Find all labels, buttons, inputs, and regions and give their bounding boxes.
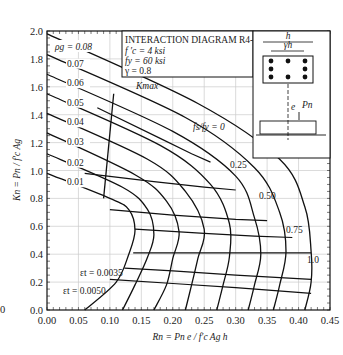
rebar-dot (269, 67, 274, 72)
y-tick-label: 2.0 (30, 26, 43, 37)
fs-label-100: 1.0 (307, 255, 319, 265)
fs-label-0: fs/fy = 0 (193, 122, 225, 132)
y-tick-label: 0.2 (30, 277, 43, 288)
strain-line (85, 173, 236, 190)
rho-label: 0.02 (67, 158, 84, 168)
inset-e: e (291, 102, 295, 112)
x-tick-label: 0.30 (226, 315, 244, 326)
y-tick-label: 0.6 (30, 221, 43, 232)
inset-gh: γh (284, 40, 293, 50)
y-axis-title: Kn = Pn / f′c Ag (12, 139, 22, 202)
y-tick-label: 0.8 (30, 193, 43, 204)
param-gamma: γ = 0.8 (124, 66, 151, 76)
fs-label-025: 0.25 (230, 160, 247, 170)
rebar-dot (269, 59, 274, 64)
kmax-label: Kmax (135, 81, 159, 91)
y-tick-label: 1.6 (30, 82, 43, 93)
rho-label: 0.03 (67, 137, 84, 147)
x-tick-label: 0.40 (289, 315, 307, 326)
rebar-dot (303, 59, 308, 64)
partial-left-label: 0 (0, 304, 5, 315)
x-tick-label: 0.25 (195, 315, 213, 326)
inset-pn: Pn (301, 100, 313, 110)
x-tick-label: 0.45 (321, 315, 339, 326)
x-tick-label: 0.20 (164, 315, 182, 326)
param-fc: f ′c = 4 ksi (125, 46, 166, 56)
rebar-dot (303, 75, 308, 80)
chart-title: INTERACTION DIAGRAM R4-60.8 (125, 35, 270, 45)
y-tick-label: 0.0 (30, 305, 43, 316)
rho-label: 0.05 (67, 98, 84, 108)
eps-label-0050: εt = 0.0050 (63, 286, 106, 296)
eps-label-0035: εt = 0.0035 (80, 268, 123, 278)
y-tick-label: 1.0 (30, 166, 43, 177)
inset-box (253, 31, 330, 158)
strain-line (135, 229, 292, 237)
x-tick-label: 0.05 (69, 315, 87, 326)
fs-label-050: 0.50 (259, 191, 276, 201)
rebar-dot (286, 75, 291, 80)
rho-label: 0.06 (67, 78, 84, 88)
interaction-diagram-chart: 0.000.050.100.150.200.250.300.350.400.45… (0, 0, 343, 355)
x-tick-label: 0.00 (38, 315, 56, 326)
param-fy: fy = 60 ksi (125, 56, 166, 66)
y-tick-label: 1.2 (30, 138, 43, 149)
x-tick-label: 0.10 (101, 315, 119, 326)
rho-label: 0.01 (67, 177, 84, 187)
rebar-dot (286, 59, 291, 64)
fs-label-075: 0.75 (286, 225, 303, 235)
strain-line (97, 108, 210, 162)
rho-label: ρg = 0.08 (54, 42, 92, 52)
x-tick-label: 0.35 (258, 315, 276, 326)
rho-label: 0.07 (67, 59, 84, 69)
y-tick-label: 1.8 (30, 54, 43, 65)
rebar-dot (303, 67, 308, 72)
y-tick-label: 0.4 (30, 249, 44, 260)
y-tick-label: 1.4 (30, 110, 44, 121)
x-axis-title: Rn = Pn e / f′c Ag h (151, 332, 227, 342)
rebar-dot (269, 75, 274, 80)
rho-label: 0.04 (67, 117, 84, 127)
x-tick-label: 0.15 (132, 315, 150, 326)
